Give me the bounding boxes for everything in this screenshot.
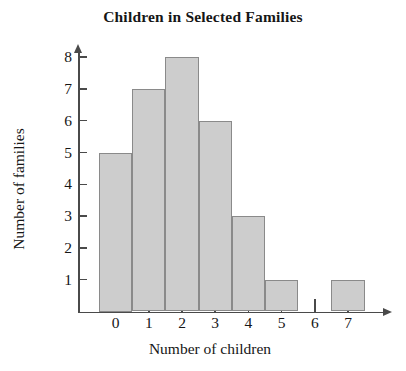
y-tick-label: 5	[50, 145, 72, 161]
y-tick-mark	[78, 215, 87, 217]
y-tick-label: 6	[50, 113, 72, 129]
y-axis-line	[78, 52, 80, 313]
x-tick-label: 2	[171, 315, 193, 331]
y-tick-mark	[78, 88, 87, 90]
y-tick-mark	[78, 247, 87, 249]
x-tick-label: 5	[271, 315, 293, 331]
bar	[199, 121, 232, 312]
y-tick-label: 4	[50, 176, 72, 192]
x-axis-line	[78, 312, 385, 314]
y-tick-mark	[78, 56, 87, 58]
y-tick-label: 3	[50, 208, 72, 224]
bar	[265, 280, 298, 312]
x-tick-label: 0	[105, 315, 127, 331]
y-tick-mark	[78, 120, 87, 122]
y-tick-mark	[78, 279, 87, 281]
x-tick-mark	[314, 299, 316, 312]
y-tick-label: 1	[50, 272, 72, 288]
x-tick-label: 1	[138, 315, 160, 331]
bar	[99, 153, 132, 312]
y-tick-mark	[78, 152, 87, 154]
x-tick-label: 7	[337, 315, 359, 331]
x-tick-label: 4	[237, 315, 259, 331]
y-tick-label: 2	[50, 240, 72, 256]
bar	[165, 57, 198, 311]
plot-area: 12345678 01234567	[0, 0, 406, 371]
chart-figure: Children in Selected Families Number of …	[0, 0, 406, 371]
y-tick-label: 8	[50, 49, 72, 65]
bar	[331, 280, 364, 312]
x-tick-label: 6	[304, 315, 326, 331]
y-tick-mark	[78, 184, 87, 186]
x-tick-label: 3	[204, 315, 226, 331]
y-tick-label: 7	[50, 81, 72, 97]
y-axis-arrow-icon	[74, 44, 82, 53]
bar	[132, 89, 165, 312]
bar	[232, 216, 265, 311]
x-axis-arrow-icon	[383, 308, 392, 316]
